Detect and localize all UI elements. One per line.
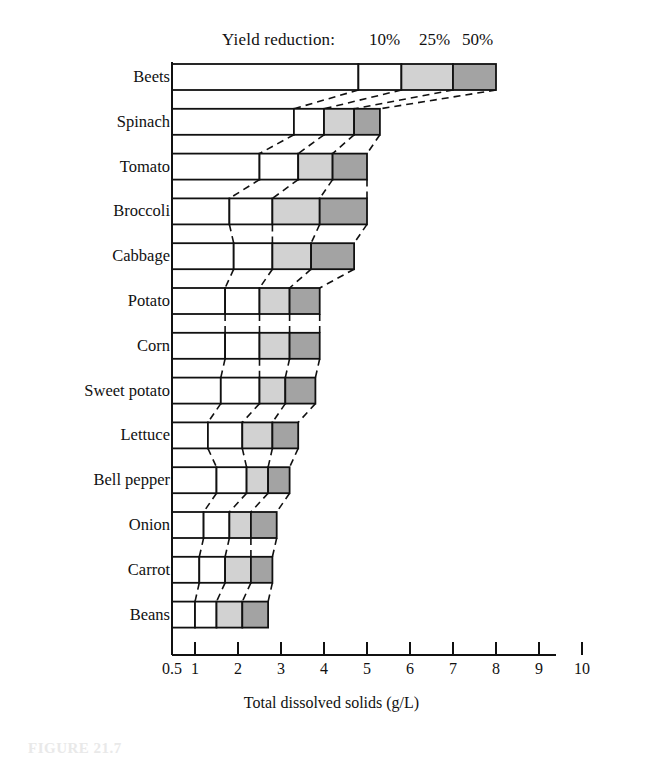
connector-line: [294, 90, 359, 109]
bar-row: [172, 243, 354, 269]
connector-line: [217, 583, 226, 602]
category-label-broccoli: Broccoli: [113, 201, 170, 221]
connector-line: [272, 180, 298, 199]
connector-line: [229, 180, 259, 199]
connector-line: [251, 493, 268, 512]
bar-segment-10: [225, 333, 259, 359]
bar-segment-base: [172, 512, 204, 538]
connector-line: [272, 404, 285, 423]
connector-line: [290, 269, 312, 288]
connector-line: [311, 224, 320, 243]
bar-row: [172, 64, 496, 90]
connector-line: [277, 493, 290, 512]
bar-segment-25: [217, 602, 243, 628]
category-label-cabbage: Cabbage: [112, 246, 170, 266]
bar-segment-50: [333, 154, 367, 180]
category-label-carrot: Carrot: [128, 560, 170, 580]
bar-segment-50: [311, 243, 354, 269]
bar-segment-25: [242, 422, 272, 448]
figure-panel: Yield reduction: 10% 25% 50% BeetsSpinac…: [0, 0, 663, 757]
bar-segment-10: [294, 109, 324, 135]
connector-line: [221, 359, 225, 378]
bar-segment-50: [251, 512, 277, 538]
connector-line: [199, 538, 203, 557]
connector-line: [333, 135, 355, 154]
connector-line: [285, 359, 289, 378]
bar-segment-50: [453, 64, 496, 90]
category-label-beans: Beans: [130, 605, 170, 625]
category-label-beets: Beets: [133, 67, 170, 87]
connector-line: [260, 135, 294, 154]
bar-segment-25: [272, 198, 319, 224]
bar-segment-base: [172, 64, 358, 90]
bar-segment-25: [247, 467, 269, 493]
category-label-corn: Corn: [137, 336, 170, 356]
bar-segment-25: [324, 109, 354, 135]
bar-row: [172, 422, 298, 448]
bar-segment-base: [172, 198, 229, 224]
bar-segment-base: [172, 243, 234, 269]
connector-line: [324, 90, 401, 109]
connector-line: [229, 224, 233, 243]
bar-segment-25: [229, 512, 251, 538]
connector-line: [225, 269, 234, 288]
bar-segment-10: [260, 154, 299, 180]
bar-segment-25: [260, 378, 286, 404]
bar-segment-50: [354, 109, 380, 135]
connector-line: [208, 448, 217, 467]
x-tick-label: 10: [552, 660, 612, 678]
category-label-tomato: Tomato: [120, 157, 170, 177]
bar-row: [172, 109, 380, 135]
bar-row: [172, 557, 272, 583]
connector-line: [260, 269, 273, 288]
bar-row: [172, 512, 277, 538]
bar-row: [172, 467, 290, 493]
bar-segment-base: [172, 333, 225, 359]
bar-segment-25: [298, 154, 332, 180]
chart-plot-area: [0, 0, 663, 757]
bar-segment-10: [229, 198, 272, 224]
bar-row: [172, 378, 315, 404]
bar-segment-10: [217, 467, 247, 493]
bar-segment-50: [272, 422, 298, 448]
bar-segment-base: [172, 557, 199, 583]
connector-line: [272, 538, 276, 557]
bar-row: [172, 602, 268, 628]
bar-row: [172, 288, 320, 314]
bar-row: [172, 154, 367, 180]
bar-segment-50: [290, 333, 320, 359]
connector-line: [354, 90, 453, 109]
bar-segment-10: [234, 243, 273, 269]
bar-segment-50: [242, 602, 268, 628]
bar-segment-25: [401, 64, 453, 90]
connector-line: [225, 538, 229, 557]
connector-line: [298, 404, 315, 423]
connector-line: [320, 269, 354, 288]
category-label-bell-pepper: Bell pepper: [93, 470, 170, 490]
bar-segment-base: [172, 378, 221, 404]
bar-segment-25: [272, 243, 311, 269]
connector-line: [354, 224, 367, 243]
connector-line: [298, 135, 324, 154]
bar-segment-50: [320, 198, 367, 224]
connector-line: [320, 180, 333, 199]
connector-line: [204, 493, 217, 512]
connector-line: [242, 583, 251, 602]
bar-segment-base: [172, 467, 217, 493]
bar-row: [172, 333, 320, 359]
connector-line: [367, 135, 380, 154]
connector-line: [268, 583, 272, 602]
category-label-onion: Onion: [129, 515, 170, 535]
connector-line: [268, 448, 272, 467]
connector-line: [229, 493, 246, 512]
bar-segment-10: [221, 378, 260, 404]
bar-segment-25: [260, 288, 290, 314]
bar-segment-10: [199, 557, 225, 583]
connector-line: [242, 448, 246, 467]
bar-segment-base: [172, 422, 208, 448]
bar-row: [172, 198, 367, 224]
connector-line: [195, 583, 199, 602]
connector-line: [208, 404, 221, 423]
bar-segment-base: [172, 154, 260, 180]
connector-line: [242, 404, 259, 423]
